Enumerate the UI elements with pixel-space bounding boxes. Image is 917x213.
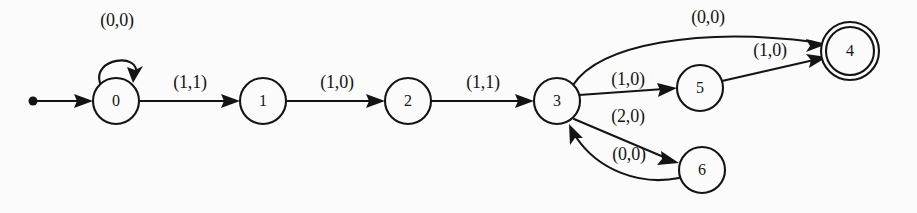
start-marker — [29, 94, 94, 108]
state-node-0[interactable]: 0 — [93, 78, 139, 124]
transition-1-to-2: (1,0) — [286, 72, 385, 108]
edge-6-3-arrow-head — [569, 124, 583, 145]
fsm-canvas: (0,0) (1,1) (1,0) (1,1) (0,0) — [0, 0, 917, 213]
state-6-label: 6 — [698, 161, 706, 178]
state-node-1[interactable]: 1 — [240, 78, 286, 124]
edge-3-5-arrow-head — [657, 83, 677, 97]
transition-0-to-0: (0,0) — [99, 10, 143, 83]
edge-5-4-path — [722, 60, 814, 81]
state-0-label: 0 — [112, 92, 120, 109]
edge-3-5-path — [579, 89, 664, 95]
edge-label-3-4: (0,0) — [691, 7, 725, 28]
edge-label-3-5: (1,0) — [611, 69, 645, 90]
edge-label-5-4: (1,0) — [753, 40, 787, 61]
state-3-label: 3 — [553, 92, 561, 109]
edge-label-3-6: (2,0) — [611, 106, 645, 127]
edge-3-6-arrow-head — [657, 151, 679, 165]
edge-label-0-1: (1,1) — [173, 72, 207, 93]
transition-3-to-5: (1,0) — [579, 69, 677, 97]
transition-0-to-1: (1,1) — [139, 72, 240, 108]
edge-label-1-2: (1,0) — [320, 72, 354, 93]
edge-label-2-3: (1,1) — [466, 72, 500, 93]
state-node-2[interactable]: 2 — [385, 78, 431, 124]
state-node-3[interactable]: 3 — [534, 78, 580, 124]
state-node-5[interactable]: 5 — [677, 65, 723, 111]
state-1-label: 1 — [259, 92, 267, 109]
fsm-diagram: (0,0) (1,1) (1,0) (1,1) (0,0) — [0, 0, 917, 213]
edge-label-6-3: (0,0) — [612, 144, 646, 165]
state-4-label: 4 — [846, 42, 854, 59]
state-node-4[interactable]: 4 — [821, 22, 879, 80]
state-node-6[interactable]: 6 — [679, 147, 725, 193]
transition-2-to-3: (1,1) — [431, 72, 534, 108]
state-5-label: 5 — [696, 79, 704, 96]
state-2-label: 2 — [404, 92, 412, 109]
edge-label-0-0: (0,0) — [100, 10, 134, 31]
